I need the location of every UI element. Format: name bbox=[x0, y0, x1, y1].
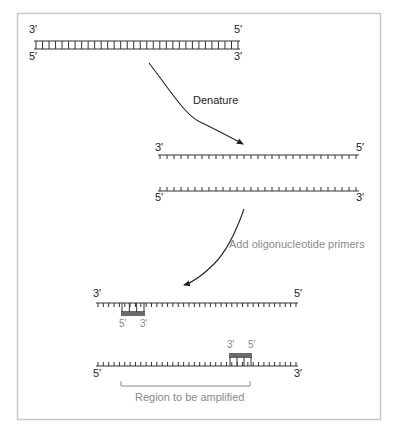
pcr-diagram: 3′ 5′ 5′ 3′ Denature 3′ 5′ 5′ 3′ Add oli… bbox=[0, 0, 396, 427]
strand-b-left-label: 5′ bbox=[155, 191, 163, 203]
annealed-b-bases bbox=[98, 362, 296, 366]
primer-1-left-label: 5′ bbox=[119, 318, 127, 329]
strand-b-bases bbox=[160, 187, 356, 191]
annealed-strand-b: 3′ 5′ 5′ 3′ bbox=[93, 339, 302, 379]
primer-1-right-label: 3′ bbox=[140, 318, 148, 329]
annealed-a-left-label: 3′ bbox=[93, 287, 101, 299]
annealed-a-right-label: 5′ bbox=[294, 287, 302, 299]
double-stranded-dna: 3′ 5′ 5′ 3′ bbox=[29, 23, 242, 62]
separated-strand-b: 5′ 3′ bbox=[155, 187, 364, 203]
strand-a-bases bbox=[160, 155, 356, 159]
primer-2-right-label: 5′ bbox=[248, 339, 256, 350]
dsdna-base-pairs bbox=[36, 41, 238, 49]
annealed-b-right-label: 3′ bbox=[294, 367, 302, 379]
dsdna-top-left-label: 3′ bbox=[29, 23, 37, 35]
annealed-a-bases bbox=[98, 303, 296, 307]
denature-label: Denature bbox=[193, 94, 238, 106]
primer-2 bbox=[229, 353, 252, 358]
separated-strand-a: 3′ 5′ bbox=[155, 141, 364, 159]
strand-a-left-label: 3′ bbox=[155, 141, 163, 153]
add-primers-label: Add oligonucleotide primers bbox=[229, 238, 365, 250]
primer-2-left-label: 3′ bbox=[227, 339, 235, 350]
dsdna-bottom-right-label: 3′ bbox=[234, 50, 242, 62]
primer-1 bbox=[121, 311, 145, 316]
strand-b-right-label: 3′ bbox=[356, 191, 364, 203]
annealed-b-left-label: 5′ bbox=[93, 367, 101, 379]
dsdna-bottom-left-label: 5′ bbox=[29, 50, 37, 62]
region-bracket bbox=[121, 381, 250, 386]
figure-frame bbox=[18, 14, 381, 420]
annealed-strand-a: 3′ 5′ 5′ 3′ bbox=[93, 287, 302, 329]
region-label: Region to be amplified bbox=[135, 391, 244, 403]
dsdna-top-right-label: 5′ bbox=[234, 23, 242, 35]
strand-a-right-label: 5′ bbox=[356, 141, 364, 153]
